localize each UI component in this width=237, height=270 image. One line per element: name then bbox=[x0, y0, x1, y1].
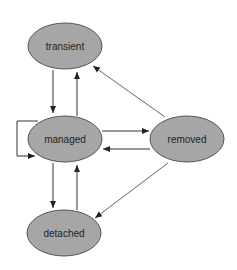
node-managed: managed bbox=[28, 116, 102, 162]
node-label: detached bbox=[43, 228, 84, 239]
node-label: removed bbox=[168, 134, 207, 145]
node-removed: removed bbox=[150, 116, 224, 162]
state-diagram: transient managed removed detached bbox=[0, 0, 237, 270]
node-transient: transient bbox=[28, 23, 102, 69]
node-detached: detached bbox=[27, 210, 101, 256]
edge-removed-to-transient bbox=[93, 66, 165, 117]
edge-removed-to-detached bbox=[95, 163, 168, 218]
node-label: managed bbox=[44, 134, 86, 145]
node-label: transient bbox=[46, 41, 85, 52]
